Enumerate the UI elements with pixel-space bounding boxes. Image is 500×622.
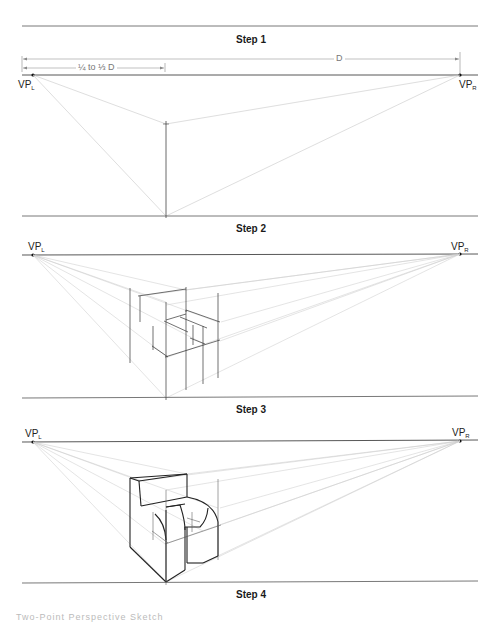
vp-left-label: VPL [18, 79, 35, 91]
dimension-d-label: D [334, 53, 345, 63]
vp-right-label: VPR [459, 79, 477, 91]
figure-caption: Two-Point Perspective Sketch [16, 612, 164, 622]
dimension-fraction-label: ¼ to ⅓ D [76, 62, 117, 72]
vp-right-label: VPR [451, 241, 469, 253]
step-2-label: Step 2 [236, 223, 266, 234]
vp-right-label: VPR [452, 427, 470, 439]
step-4-label: Step 4 [236, 589, 266, 600]
panel-2 [22, 252, 478, 400]
sketched-object [130, 474, 218, 582]
step-3-label: Step 3 [236, 404, 266, 415]
panel-3 [22, 439, 478, 585]
vp-left-label: VPL [28, 241, 45, 253]
step-1-label: Step 1 [236, 34, 266, 45]
panel-1 [22, 52, 478, 218]
vp-left-label: VPL [25, 428, 42, 440]
